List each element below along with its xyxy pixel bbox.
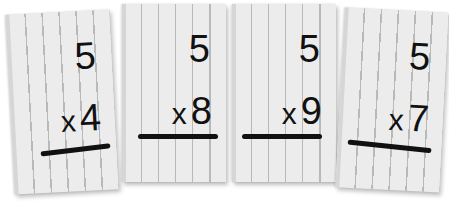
card-3-bottom: x9 — [282, 92, 322, 130]
card-2-bottom-number: 8 — [191, 90, 212, 132]
card-3-bottom-number: 9 — [301, 90, 322, 132]
card-4-bottom-number: 7 — [407, 97, 430, 140]
card-1-answer-line — [40, 143, 110, 156]
card-3-top-number: 5 — [299, 30, 320, 68]
multiply-sign: x — [172, 97, 187, 130]
card-1-bottom: x4 — [60, 98, 102, 138]
card-4-bottom: x7 — [388, 98, 430, 138]
card-4-answer-line — [348, 140, 432, 154]
flash-card-3: 5 x9 — [232, 4, 336, 182]
card-3-answer-line — [242, 134, 322, 139]
multiply-sign: x — [388, 103, 405, 137]
flash-card-4: 5 x7 — [335, 7, 448, 192]
flash-card-2: 5 x8 — [122, 4, 226, 182]
card-4-top-number: 5 — [408, 37, 431, 76]
multiply-sign: x — [60, 104, 77, 138]
card-2-bottom: x8 — [172, 92, 212, 130]
card-1-top-number: 5 — [73, 36, 96, 75]
flash-card-1: 5 x4 — [5, 9, 118, 194]
card-2-answer-line — [138, 134, 218, 139]
card-1-bottom-number: 4 — [79, 96, 102, 139]
multiply-sign: x — [282, 97, 297, 130]
card-2-top-number: 5 — [189, 30, 210, 68]
